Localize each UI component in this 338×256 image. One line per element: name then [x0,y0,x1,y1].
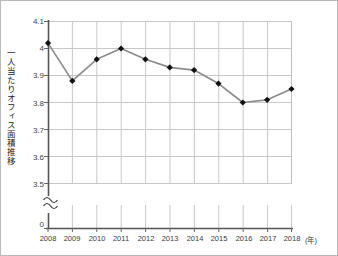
plot-area [0,0,338,256]
broken-axis-gridlines [72,205,291,228]
axis-break-icon [44,198,58,209]
chart-container: 一人当たりオフィス面積推移 4.1 4 3.9 3.8 3.7 3.6 3.5 … [0,0,338,256]
